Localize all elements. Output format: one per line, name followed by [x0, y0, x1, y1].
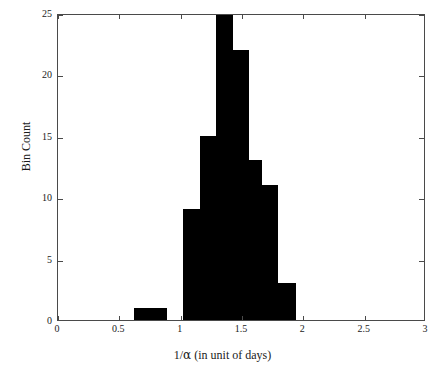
y-axis-tick — [58, 15, 63, 16]
x-axis-tick-label: 1.5 — [221, 323, 261, 335]
x-axis-tick — [181, 14, 182, 19]
x-axis-tick — [58, 316, 59, 321]
histogram-bar — [233, 50, 250, 320]
y-axis-tick-label: 5 — [18, 254, 52, 266]
histogram-bar — [151, 308, 168, 320]
x-axis-tick — [242, 316, 243, 321]
x-axis-tick — [303, 14, 304, 19]
x-axis-tick-label: 2 — [282, 323, 322, 335]
histogram-bar — [278, 283, 296, 320]
x-axis-tick — [119, 316, 120, 321]
x-axis-tick — [181, 316, 182, 321]
x-axis-tick-label: 1 — [160, 323, 200, 335]
x-axis-tick-label: 0.5 — [98, 323, 138, 335]
y-axis-tick — [58, 261, 63, 262]
histogram-figure: 00.511.522.53 0510152025 1/α (in unit of… — [0, 0, 445, 378]
y-axis-tick — [58, 138, 63, 139]
histogram-bar — [183, 209, 200, 320]
y-axis-tick — [419, 199, 424, 200]
histogram-bar — [216, 14, 233, 320]
x-axis-tick-label: 2.5 — [344, 323, 384, 335]
histogram-bar — [134, 308, 151, 320]
x-axis-tick — [242, 14, 243, 19]
y-axis-tick — [58, 199, 63, 200]
bars-layer — [58, 15, 424, 320]
y-axis-tick-label: 25 — [18, 8, 52, 20]
y-axis-tick — [419, 76, 424, 77]
x-axis-tick — [365, 316, 366, 321]
histogram-bar — [249, 160, 261, 320]
histogram-bar — [200, 136, 217, 320]
x-axis-tick — [119, 14, 120, 19]
histogram-bar — [262, 185, 279, 320]
y-axis-tick — [419, 15, 424, 16]
x-axis-label: 1/α (in unit of days) — [0, 348, 445, 363]
y-axis-tick — [419, 138, 424, 139]
y-axis-label: Bin Count — [19, 72, 34, 222]
x-axis-tick — [365, 14, 366, 19]
x-axis-tick-label: 3 — [405, 323, 445, 335]
y-axis-tick — [419, 261, 424, 262]
plot-area — [57, 14, 425, 321]
y-axis-tick-label: 0 — [18, 315, 52, 327]
y-axis-tick — [58, 76, 63, 77]
x-axis-tick — [303, 316, 304, 321]
